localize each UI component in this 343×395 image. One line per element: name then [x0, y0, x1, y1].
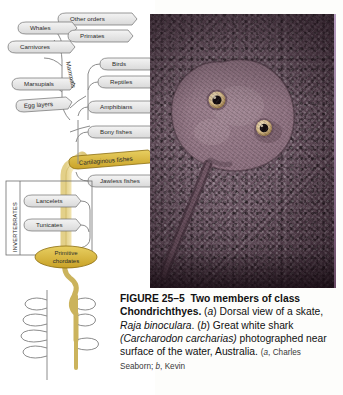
photo-right-edge — [334, 14, 336, 288]
part-a-text-post: . — [192, 320, 195, 331]
branch-label: Birds — [112, 60, 126, 67]
node-primitive-chordates[interactable]: Primitive chordates — [35, 246, 97, 268]
part-a-species: Raja binoculara — [120, 320, 192, 331]
branch-marsupials[interactable]: Marsupials — [12, 78, 75, 90]
figure-caption: FIGURE 25–5 Two members of class Chondri… — [120, 292, 335, 374]
branch-label: Carnivores — [20, 43, 50, 50]
branch-primates[interactable]: Primates — [68, 30, 133, 42]
invertebrates-label: INVERTEBRATES — [12, 202, 18, 252]
branch-birds[interactable]: Birds — [100, 58, 155, 70]
branch-label: Jawless fishes — [100, 177, 140, 184]
part-b-text-pre: ) Great white shark — [206, 320, 293, 331]
branch-label: Amphibians — [100, 103, 132, 110]
skate-photograph — [150, 14, 336, 288]
branch-label: Whales — [30, 24, 51, 31]
branch-reptiles[interactable]: Reptiles — [98, 76, 155, 88]
branch-amphibians[interactable]: Amphibians — [88, 101, 155, 113]
part-b-species: (Carcharodon carcharias) — [120, 333, 237, 344]
branch-carnivores[interactable]: Carnivores — [8, 41, 75, 53]
figure-page: Other orders Whales Primates Carnivores … — [0, 0, 343, 395]
branch-label: Marsupials — [24, 80, 54, 87]
node-label-line1: Primitive — [54, 250, 78, 256]
figure-number: FIGURE 25–5 — [120, 293, 185, 304]
branch-whales[interactable]: Whales — [18, 22, 77, 34]
credit-b-name: , Kevin — [160, 362, 185, 371]
photo-vignette — [150, 14, 336, 288]
branch-label: Tunicates — [36, 221, 63, 228]
invertebrates-group: INVERTEBRATES — [6, 181, 92, 255]
branch-label: Reptiles — [110, 78, 132, 85]
part-a-text-pre: ) Dorsal view of a skate, — [213, 306, 323, 317]
branch-tunicates[interactable]: Tunicates — [24, 219, 81, 231]
branch-bony-fishes[interactable]: Bony fishes — [88, 126, 155, 138]
branch-label: Primates — [80, 32, 104, 39]
branch-label: Bony fishes — [100, 128, 132, 135]
lower-tree — [21, 290, 99, 380]
branch-lancelets[interactable]: Lancelets — [24, 195, 81, 207]
branch-label: Lancelets — [36, 197, 63, 204]
branch-jawless-fishes[interactable]: Jawless fishes — [88, 175, 155, 187]
branch-label: Other orders — [70, 15, 105, 22]
node-label-line2: chordates — [53, 258, 79, 264]
